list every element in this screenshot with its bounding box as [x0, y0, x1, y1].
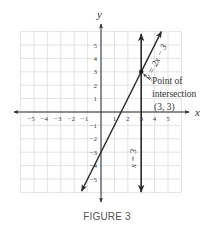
x-tick-label: −2 — [67, 115, 75, 123]
y-tick-label: 3 — [94, 68, 98, 76]
y-tick-label: 5 — [94, 42, 98, 50]
y-tick-label: 4 — [94, 55, 98, 63]
figure-caption: FIGURE 3 — [83, 211, 131, 222]
x-tick-label: −5 — [27, 115, 35, 123]
x-tick-label: −1 — [81, 115, 89, 123]
graph-figure: x y −5−4−3−2−112345 54321−1−2−3−4−5 y = … — [0, 0, 214, 233]
x-tick-labels: −5−4−3−2−112345 — [27, 115, 170, 123]
y-tick-label: −2 — [90, 135, 98, 143]
line-label-x-equals-3: x = 3 — [128, 148, 138, 169]
y-tick-label: −3 — [90, 149, 98, 157]
annotation-line-2: intersection — [152, 89, 197, 99]
x-tick-label: −4 — [41, 115, 49, 123]
y-tick-label: 2 — [94, 82, 98, 90]
y-tick-label: −5 — [90, 176, 98, 184]
y-tick-label: −1 — [90, 122, 98, 130]
intersection-point — [139, 70, 143, 74]
x-tick-label: 5 — [166, 115, 170, 123]
annotation-line-3: (3, 3) — [154, 102, 175, 113]
x-tick-label: 4 — [153, 115, 157, 123]
y-tick-label: 1 — [94, 95, 98, 103]
annotation-line-1: Point of — [152, 76, 183, 86]
y-axis-label: y — [96, 8, 102, 20]
x-axis-label: x — [194, 106, 200, 118]
x-tick-label: 2 — [126, 115, 130, 123]
x-tick-label: −3 — [54, 115, 62, 123]
